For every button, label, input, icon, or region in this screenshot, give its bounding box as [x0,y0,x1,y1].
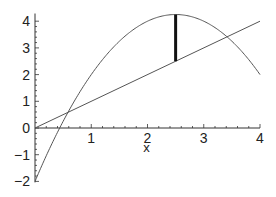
x-axis-label: x [143,140,150,155]
x-tick-label: 1 [87,130,95,146]
y-tick-label: −2 [14,173,30,189]
x-tick-label: 3 [200,130,208,146]
plot-area: −2−1012341234x [0,0,276,197]
x-tick-label: 4 [256,130,264,146]
tick-labels: −2−1012341234x [14,13,264,189]
y-tick-label: 0 [22,120,30,136]
y-tick-label: 3 [22,40,30,56]
y-tick-label: 2 [22,67,30,83]
curves [35,15,260,182]
y-tick-label: 1 [22,93,30,109]
y-tick-label: −1 [14,147,30,163]
linear-curve [35,21,260,128]
parabola-curve [35,15,260,182]
y-tick-label: 4 [22,13,30,29]
axes [35,14,260,183]
